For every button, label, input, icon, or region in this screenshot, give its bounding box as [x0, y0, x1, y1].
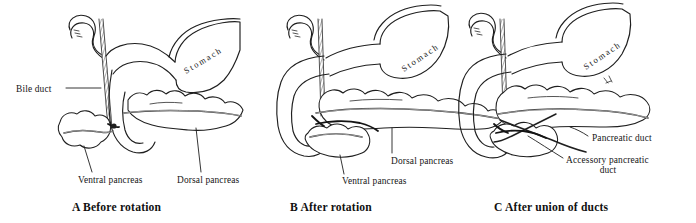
caption-a: A Before rotation — [72, 201, 162, 214]
label-ventral-pancreas-a: Ventral pancreas — [78, 175, 143, 185]
label-ventral-pancreas-b: Ventral pancreas — [342, 176, 407, 186]
ampulla-a — [111, 123, 116, 128]
label-dorsal-pancreas-b: Dorsal pancreas — [391, 156, 454, 166]
figure-canvas: Stomach Bile duct Ventral pancreas Dorsa… — [0, 0, 696, 223]
label-bile-duct-a: Bile duct — [16, 84, 52, 94]
label-pancreatic-duct-c: Pancreatic duct — [592, 133, 652, 143]
label-accessory-pancreatic-duct-line1-c: Accessory pancreatic — [566, 155, 649, 165]
pancreas-development-figure: Stomach Bile duct Ventral pancreas Dorsa… — [0, 0, 696, 223]
label-accessory-pancreatic-duct-line2-c: duct — [600, 165, 617, 175]
caption-c: C After union of ducts — [494, 201, 609, 214]
caption-b: B After rotation — [290, 201, 372, 214]
label-dorsal-pancreas-a: Dorsal pancreas — [177, 175, 240, 185]
